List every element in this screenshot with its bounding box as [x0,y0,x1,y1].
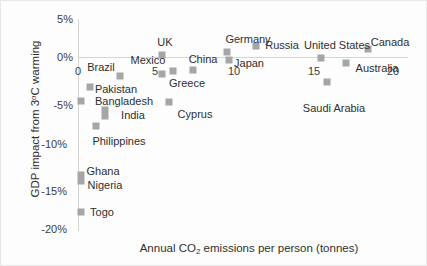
data-marker-pakistan [87,84,94,91]
y-tick-label: -5% [39,99,73,111]
data-marker-united-states [318,55,325,62]
data-point-label: Ghana [86,165,119,177]
data-point-label: Bangladesh [95,95,153,107]
x-tick-label: 0 [67,65,89,77]
data-marker-australia [343,60,350,67]
data-point-label: United States [304,39,370,51]
y-tick-label: 5% [39,13,73,25]
data-point-label: UK [157,36,172,48]
y-axis-title-degree: o [29,95,38,99]
data-point-label: China [189,53,218,65]
data-point-label: Japan [234,57,264,69]
data-marker-bangladesh [78,98,85,105]
data-marker-ghana-nigeria [78,172,85,185]
data-point-label: Pakistan [95,83,137,95]
data-marker-india [102,107,109,120]
x-axis-title-suffix: emissions per person (tonnes) [200,242,358,254]
data-marker-germany [224,49,231,56]
data-marker-greece [170,68,177,75]
data-marker-china [190,67,197,74]
data-point-label: Nigeria [88,179,123,191]
data-marker-saudi-arabia [324,79,331,86]
data-point-label: Philippines [92,135,145,147]
data-point-label: Greece [169,77,205,89]
data-point-label: Togo [90,206,114,218]
data-point-label: Canada [371,36,410,48]
x-axis-title: Annual CO2 emissions per person (tonnes) [119,242,379,254]
data-marker-cyprus [166,99,173,106]
y-tick-label: -20% [33,223,67,235]
y-axis-title-suffix: C warming [29,41,41,96]
y-axis-line [78,19,79,231]
chart-figure: 5%0%-5%-10%-15%-20% 05101520 TogoGhanaNi… [0,0,427,266]
data-point-label: Russia [265,39,299,51]
data-point-label: Brazil [87,61,115,73]
data-point-label: Saudi Arabia [303,102,365,114]
data-point-label: Cyprus [178,108,213,120]
y-axis-title: GDP impact from 3oC warming [29,19,41,219]
data-marker-philippines [93,123,100,130]
x-axis-title-prefix: Annual CO [140,242,196,254]
data-point-label: India [121,109,145,121]
x-axis-title-subscript: 2 [196,247,200,256]
scatter-plot-area: 5%0%-5%-10%-15%-20% 05101520 TogoGhanaNi… [1,1,427,266]
data-marker-togo [78,209,85,216]
data-point-label: Australia [356,62,399,74]
data-point-label: Germany [225,33,270,45]
y-axis-title-prefix: GDP impact from 3 [29,100,41,198]
data-marker-brazil [117,73,124,80]
x-tick-label: 15 [303,65,325,77]
data-point-label: Mexico [131,54,166,66]
data-marker-mexico [159,71,166,78]
data-marker-japan [226,57,233,64]
y-tick-label: 0% [39,51,73,63]
